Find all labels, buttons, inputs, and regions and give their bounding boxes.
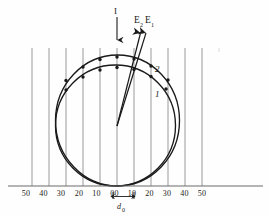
tick-label-plus20: 20: [145, 189, 154, 198]
data-point: [98, 58, 101, 61]
data-point: [164, 87, 167, 90]
data-point: [81, 65, 84, 68]
vector-label-E1: E 1: [145, 15, 154, 28]
axis-tick-labels-left: 50 40 30 20 10: [22, 189, 101, 199]
tick-label-minus40: 40: [39, 189, 48, 198]
axis-tick-labels-right: 10 20 30 40 50: [128, 189, 207, 198]
tick-label-minus30: 30: [57, 189, 66, 198]
tick-label-plus10: 10: [128, 189, 137, 198]
tick-label-minus50: 50: [22, 189, 31, 198]
data-point: [166, 78, 169, 81]
data-point: [149, 64, 152, 67]
tick-label-minus20: 20: [75, 189, 84, 198]
vector-E1-arrow: [117, 33, 146, 126]
tick-label-plus50: 50: [198, 189, 207, 198]
vector-label-E2-subscript: 2: [140, 22, 143, 28]
tick-label-plus40: 40: [180, 189, 189, 198]
data-point: [64, 88, 67, 91]
vector-E2-arrow: [117, 33, 141, 126]
current-label: I: [114, 6, 117, 16]
figure-container: I E 2 E 1 2 1 d 0 50 40 30 20 10 00: [0, 0, 271, 217]
curve-label-1: 1: [155, 89, 160, 99]
tick-label-minus10: 10: [92, 189, 101, 198]
tick-label-zero: 00: [110, 189, 119, 198]
data-point: [115, 55, 118, 58]
scientific-figure: I E 2 E 1 2 1 d 0 50 40 30 20 10 00: [0, 0, 271, 217]
curve-label-2: 2: [155, 64, 160, 74]
tick-label-plus30: 30: [163, 189, 172, 198]
curve-2-inner: [56, 65, 176, 186]
curve-2-points: [64, 66, 167, 92]
data-point: [115, 66, 118, 69]
vector-label-E1-subscript: 1: [151, 22, 154, 28]
data-point: [64, 79, 67, 82]
dimension-label-d0: d 0: [117, 202, 125, 213]
vector-label-E2: E 2: [134, 15, 143, 28]
dimension-label-subscript: 0: [122, 207, 125, 213]
data-point: [81, 75, 84, 78]
data-point: [98, 68, 101, 71]
data-point: [149, 75, 152, 78]
curve-1-outer: [56, 55, 180, 186]
